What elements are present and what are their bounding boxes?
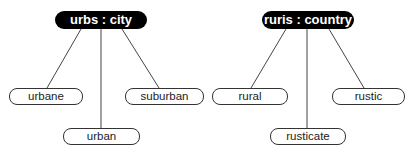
link-ruris-rural xyxy=(251,29,286,88)
leaf-node-suburban: suburban xyxy=(125,88,204,105)
link-urbs-suburban xyxy=(122,29,159,88)
root-label: urbs : city xyxy=(70,12,132,27)
leaf-label: rusticate xyxy=(286,130,329,142)
leaf-label: rustic xyxy=(355,90,382,102)
leaf-node-urbane: urbane xyxy=(9,88,83,105)
leaf-node-urban: urban xyxy=(63,128,140,145)
leaf-node-rustic: rustic xyxy=(332,88,405,105)
root-label: ruris : country xyxy=(264,12,352,27)
link-urbs-urbane xyxy=(47,29,81,88)
root-node-urbs: urbs : city xyxy=(55,11,147,29)
leaf-node-rusticate: rusticate xyxy=(270,128,346,145)
link-ruris-rustic xyxy=(329,29,364,88)
root-node-ruris: ruris : country xyxy=(262,11,354,29)
leaf-label: rural xyxy=(238,90,261,102)
leaf-label: urban xyxy=(87,130,116,142)
leaf-label: suburban xyxy=(141,90,189,102)
leaf-label: urbane xyxy=(28,90,64,102)
leaf-node-rural: rural xyxy=(212,88,288,105)
